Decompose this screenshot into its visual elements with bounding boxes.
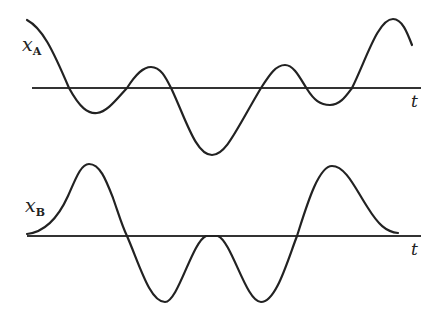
y-label-a: xA bbox=[22, 33, 42, 58]
time-label-a: t bbox=[411, 91, 418, 111]
panel-a: xA t bbox=[22, 19, 421, 155]
signal-curve-b bbox=[27, 164, 398, 302]
panel-b: xB t bbox=[25, 164, 421, 302]
time-label-b: t bbox=[411, 239, 418, 259]
oscillation-diagram: xA t xB t bbox=[0, 0, 439, 326]
y-label-b: xB bbox=[25, 194, 45, 219]
